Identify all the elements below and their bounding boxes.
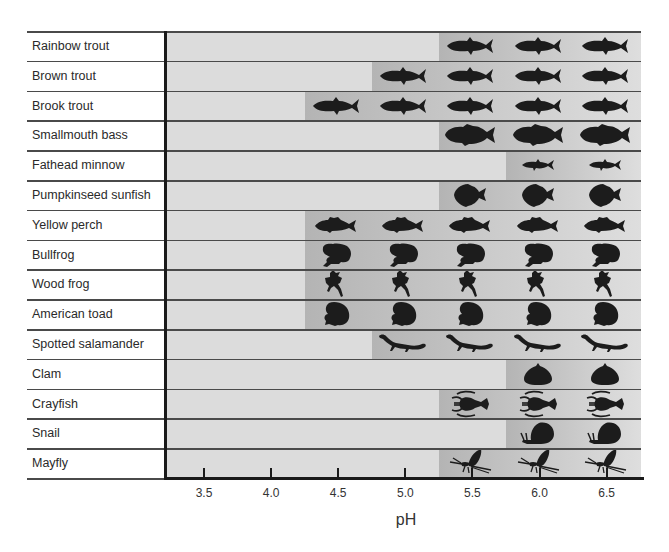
toad-icon bbox=[523, 300, 553, 328]
clam-icon bbox=[522, 362, 554, 386]
toad-icon bbox=[388, 300, 418, 328]
row-divider bbox=[27, 329, 641, 331]
row-label: Yellow perch bbox=[32, 218, 102, 232]
mayfly-icon bbox=[515, 448, 561, 478]
row-divider bbox=[27, 61, 641, 63]
row-divider bbox=[27, 418, 641, 420]
bass-icon bbox=[511, 123, 565, 147]
perch-icon bbox=[448, 215, 492, 235]
row-label: Brook trout bbox=[32, 99, 93, 113]
x-axis-title: pH bbox=[396, 511, 416, 529]
row-divider bbox=[27, 120, 641, 122]
trout-icon bbox=[378, 96, 428, 116]
x-tick-mark bbox=[404, 468, 406, 478]
perch-icon bbox=[516, 215, 560, 235]
perch-icon bbox=[314, 215, 358, 235]
x-tick-mark bbox=[606, 468, 608, 478]
bass-icon bbox=[578, 123, 632, 147]
row-label: Spotted salamander bbox=[32, 337, 144, 351]
toad-icon bbox=[321, 300, 351, 328]
row-label: Pumpkinseed sunfish bbox=[32, 188, 151, 202]
sunfish-icon bbox=[520, 182, 556, 208]
salamander-icon bbox=[513, 333, 563, 355]
bullfrog-icon bbox=[453, 242, 487, 268]
x-tick-label: 5.5 bbox=[464, 486, 481, 500]
perch-icon bbox=[381, 215, 425, 235]
row-divider bbox=[27, 448, 641, 450]
row-label: Crayfish bbox=[32, 397, 78, 411]
row-label: Mayfly bbox=[32, 456, 68, 470]
mayfly-icon bbox=[582, 448, 628, 478]
row-divider bbox=[27, 299, 641, 301]
row-divider bbox=[27, 269, 641, 271]
row-divider bbox=[27, 389, 641, 391]
row-divider bbox=[27, 180, 641, 182]
x-tick-mark bbox=[471, 468, 473, 478]
x-tick-mark bbox=[337, 468, 339, 478]
sunfish-icon bbox=[587, 182, 623, 208]
clam-icon bbox=[589, 362, 621, 386]
wood-frog-icon bbox=[525, 269, 551, 299]
x-tick-label: 4.5 bbox=[330, 486, 347, 500]
trout-icon bbox=[445, 36, 495, 56]
salamander-icon bbox=[378, 333, 428, 355]
x-tick-label: 6.5 bbox=[598, 486, 615, 500]
trout-icon bbox=[513, 36, 563, 56]
wood-frog-icon bbox=[592, 269, 618, 299]
minnow-icon bbox=[521, 158, 555, 172]
row-label: Wood frog bbox=[32, 277, 89, 291]
snail-icon bbox=[586, 420, 624, 446]
toad-icon bbox=[455, 300, 485, 328]
wood-frog-icon bbox=[457, 269, 483, 299]
trout-icon bbox=[445, 96, 495, 116]
row-divider bbox=[27, 31, 641, 33]
bullfrog-icon bbox=[386, 242, 420, 268]
row-label: American toad bbox=[32, 307, 113, 321]
x-tick-label: 4.0 bbox=[263, 486, 280, 500]
bullfrog-icon bbox=[319, 242, 353, 268]
bullfrog-icon bbox=[521, 242, 555, 268]
y-axis-line bbox=[164, 31, 167, 479]
wood-frog-icon bbox=[323, 269, 349, 299]
row-label: Smallmouth bass bbox=[32, 128, 128, 142]
x-tick-label: 5.0 bbox=[397, 486, 414, 500]
mayfly-icon bbox=[447, 448, 493, 478]
x-tick-mark bbox=[203, 468, 205, 478]
bass-icon bbox=[443, 123, 497, 147]
x-tick-mark bbox=[270, 468, 272, 478]
row-divider bbox=[27, 150, 641, 152]
x-tick-mark bbox=[539, 468, 541, 478]
toad-icon bbox=[590, 300, 620, 328]
salamander-icon bbox=[445, 333, 495, 355]
wood-frog-icon bbox=[390, 269, 416, 299]
minnow-icon bbox=[588, 158, 622, 172]
x-tick-label: 3.5 bbox=[196, 486, 213, 500]
trout-icon bbox=[378, 66, 428, 86]
row-label: Clam bbox=[32, 367, 61, 381]
snail-icon bbox=[519, 420, 557, 446]
row-divider bbox=[27, 240, 641, 242]
trout-icon bbox=[580, 36, 630, 56]
trout-icon bbox=[311, 96, 361, 116]
row-label: Fathead minnow bbox=[32, 158, 124, 172]
ph-tolerance-chart: Rainbow troutBrown troutBrook troutSmall… bbox=[0, 0, 669, 552]
trout-icon bbox=[580, 66, 630, 86]
trout-icon bbox=[513, 66, 563, 86]
trout-icon bbox=[513, 96, 563, 116]
row-divider bbox=[27, 359, 641, 361]
perch-icon bbox=[583, 215, 627, 235]
row-divider bbox=[27, 210, 641, 212]
salamander-icon bbox=[580, 333, 630, 355]
crayfish-icon bbox=[517, 390, 559, 418]
bullfrog-icon bbox=[588, 242, 622, 268]
row-divider bbox=[27, 91, 641, 93]
row-label: Rainbow trout bbox=[32, 39, 109, 53]
sunfish-icon bbox=[452, 182, 488, 208]
crayfish-icon bbox=[449, 390, 491, 418]
row-divider bbox=[27, 478, 167, 480]
trout-icon bbox=[445, 66, 495, 86]
row-label: Snail bbox=[32, 426, 60, 440]
trout-icon bbox=[580, 96, 630, 116]
row-label: Brown trout bbox=[32, 69, 96, 83]
x-tick-label: 6.0 bbox=[531, 486, 548, 500]
